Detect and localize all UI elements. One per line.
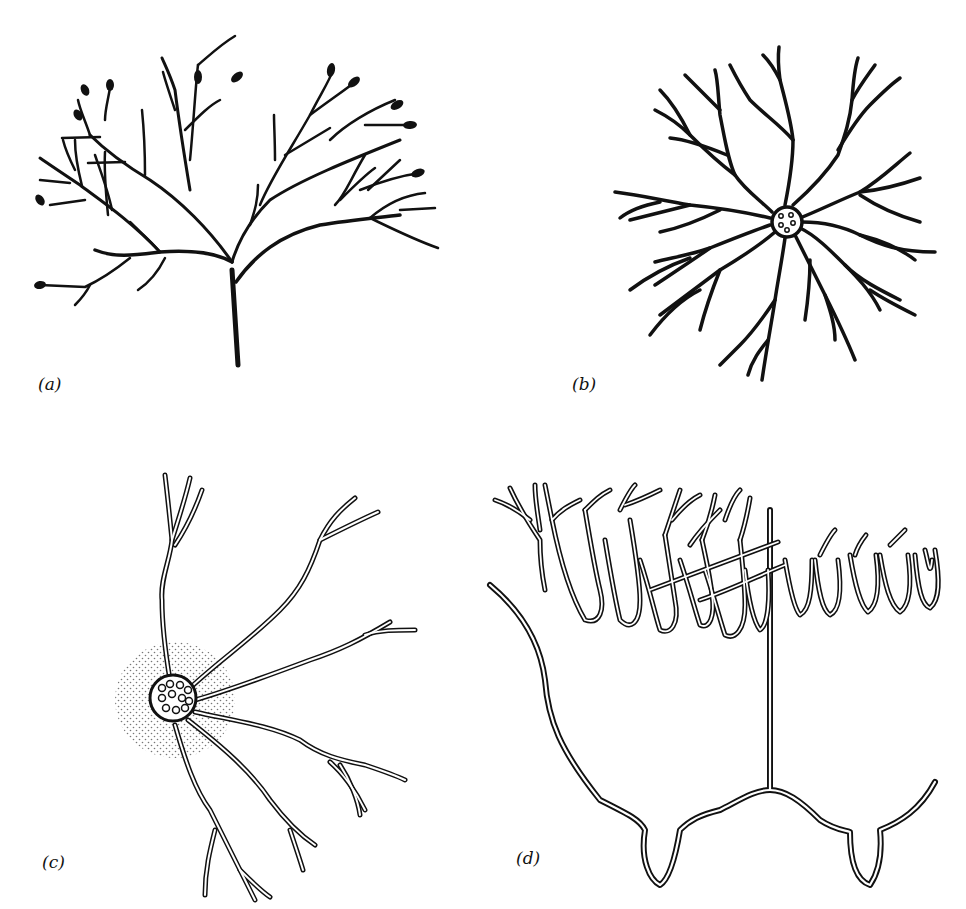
panel-label-c: (c) <box>42 852 65 872</box>
panel-label-d: (d) <box>516 848 540 868</box>
panel-b: (b) <box>480 0 966 400</box>
oval-tips <box>33 62 426 290</box>
panel-a: (a) <box>0 0 480 400</box>
canopy-loops <box>495 485 938 636</box>
arch-canopy-drawing <box>480 450 966 909</box>
cell-drawing <box>0 450 480 909</box>
panel-d: (d) <box>480 450 966 909</box>
panel-c: (c) <box>0 450 480 909</box>
panel-label-b: (b) <box>572 374 596 394</box>
tree-drawing <box>0 0 480 400</box>
panel-label-a: (a) <box>38 374 61 394</box>
radial-drawing <box>480 0 966 400</box>
